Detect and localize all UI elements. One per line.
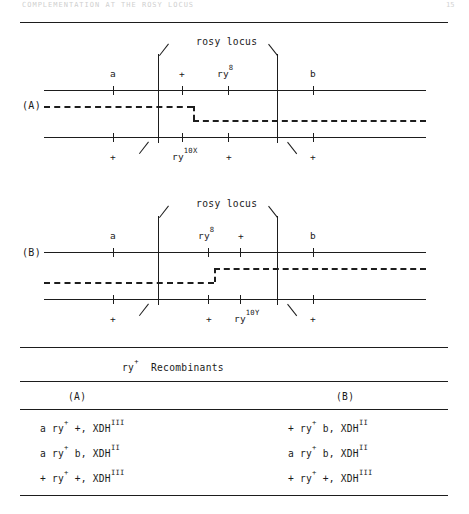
panel-b-label: (B): [22, 247, 41, 258]
panel-a-top-tick-2: [182, 86, 183, 95]
table-column-head-a: (A): [68, 391, 86, 402]
panel-a-dashed-step: [193, 106, 195, 120]
panel-a-top-chromosome: [44, 90, 426, 91]
panel-b-bracket-arm-left: [159, 206, 169, 219]
table-bottom-rule: [20, 495, 448, 496]
panel-a-locus-title: rosy locus: [196, 36, 257, 47]
panel-b-bottom-chromosome: [44, 299, 426, 300]
panel-b-dashed-step: [214, 268, 216, 282]
table-row: + ry+ +, XDHIII: [40, 473, 125, 484]
panel-b-bottom-label-3: ry10Y: [234, 314, 259, 324]
panel-b-top-label-1: a: [110, 231, 116, 241]
panel-a-dashed-left-arm: [44, 106, 193, 108]
panel-a-dashed-right-arm: [193, 120, 426, 122]
panel-a-bracket-wall-right: [277, 54, 278, 143]
figure-page: COMPLEMENTATION AT THE ROSY LOCUS 15 (A)…: [0, 0, 469, 514]
panel-a-top-tick-1: [113, 86, 114, 95]
panel-b-top-label-2: ry8: [198, 231, 214, 241]
panel-a-top-label-1: a: [110, 69, 116, 79]
panel-b-bottom-label-2: +: [206, 314, 212, 324]
panel-b-dashed-right-arm: [214, 268, 426, 270]
running-head-folio: 15: [446, 1, 454, 9]
table-row: + ry+ +, XDHIII: [288, 473, 373, 484]
panel-a-top-tick-4: [313, 86, 314, 95]
panel-b-top-tick-3: [240, 248, 241, 257]
table-column-head-b: (B): [336, 391, 354, 402]
panel-b-bracket-wall-right: [277, 216, 278, 305]
table-columns-rule: [20, 409, 448, 410]
panel-a-bottom-tick-3: [228, 133, 229, 142]
panel-b-bracket-arm-bottom-right: [287, 304, 297, 317]
figure-top-rule: [20, 22, 448, 23]
panel-a-bottom-tick-1: [113, 133, 114, 142]
panel-a-bracket-arm-bottom-left: [139, 142, 149, 155]
panel-b-bottom-tick-4: [313, 295, 314, 304]
panel-b-bracket-arm-bottom-left: [139, 304, 149, 317]
panel-a-bottom-chromosome: [44, 137, 426, 138]
panel-b-bottom-tick-2: [208, 295, 209, 304]
panel-b-bottom-label-4: +: [310, 314, 316, 324]
table-top-rule: [20, 347, 448, 348]
table-title: ry+ Recombinants: [122, 362, 224, 373]
panel-a-bottom-label-2: ry10X: [172, 152, 197, 162]
panel-b-top-tick-2: [208, 248, 209, 257]
panel-b-bottom-tick-1: [113, 295, 114, 304]
panel-b-top-label-4: b: [310, 231, 316, 241]
panel-b-locus-title: rosy locus: [196, 198, 257, 209]
panel-a-top-tick-3: [228, 86, 229, 95]
panel-a-label: (A): [22, 100, 41, 111]
panel-a-top-label-4: b: [310, 69, 316, 79]
panel-a-bracket-wall-left: [158, 54, 159, 143]
panel-b-bottom-tick-3: [240, 295, 241, 304]
panel-a-bottom-label-1: +: [110, 152, 116, 162]
panel-b-top-tick-1: [113, 248, 114, 257]
panel-b-top-chromosome: [44, 252, 426, 253]
panel-b-top-tick-4: [313, 248, 314, 257]
panel-b-dashed-left-arm: [44, 282, 214, 284]
table-header-rule: [20, 381, 448, 382]
panel-a-top-label-2: +: [179, 69, 185, 79]
panel-a-bracket-arm-left: [159, 44, 169, 57]
table-row: a ry+ b, XDHII: [40, 448, 120, 459]
panel-b-top-label-3: +: [238, 231, 244, 241]
panel-a-bottom-label-4: +: [310, 152, 316, 162]
table-row: + ry+ b, XDHII: [288, 423, 368, 434]
panel-a-top-label-3: ry8: [217, 69, 233, 79]
panel-b-bracket-wall-left: [158, 216, 159, 305]
running-head-title: COMPLEMENTATION AT THE ROSY LOCUS: [22, 1, 194, 9]
table-row: a ry+ b, XDHII: [288, 448, 368, 459]
panel-a-bottom-label-3: +: [226, 152, 232, 162]
table-row: a ry+ +, XDHIII: [40, 423, 125, 434]
panel-a-bottom-tick-2: [182, 133, 183, 142]
panel-b-bottom-label-1: +: [110, 314, 116, 324]
panel-a-bracket-arm-bottom-right: [287, 142, 297, 155]
panel-a-bottom-tick-4: [313, 133, 314, 142]
